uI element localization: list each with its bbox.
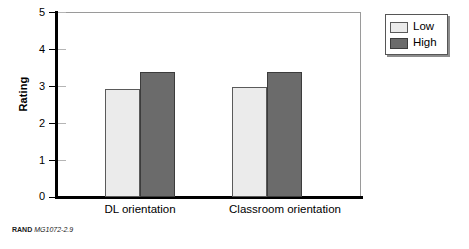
legend: Low High	[385, 14, 448, 55]
legend-swatch-low-icon	[390, 22, 408, 33]
legend-item-low[interactable]: Low	[390, 19, 447, 35]
figure-container: Rating 5 4 3 2 1 0 DL orientation Classr…	[0, 0, 469, 249]
x-category-label-dl-orientation: DL orientation	[70, 203, 210, 215]
x-category-label-classroom-orientation: Classroom orientation	[195, 203, 375, 215]
bar-classroom-orientation-low[interactable]	[232, 87, 267, 197]
legend-item-high[interactable]: High	[390, 35, 447, 51]
legend-swatch-high-icon	[390, 38, 408, 49]
caption-source: RAND	[12, 226, 32, 233]
bar-dl-orientation-high[interactable]	[140, 72, 175, 197]
caption-number: MG1072-2.9	[34, 226, 73, 233]
bar-dl-orientation-low[interactable]	[105, 89, 140, 197]
legend-label-low: Low	[413, 21, 434, 33]
figure-caption: RANDMG1072-2.9	[12, 226, 73, 233]
bar-classroom-orientation-high[interactable]	[267, 72, 302, 197]
legend-label-high: High	[413, 37, 437, 49]
